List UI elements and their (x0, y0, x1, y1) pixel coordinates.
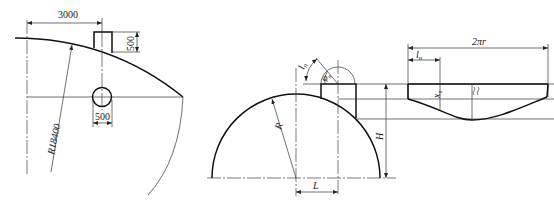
break-mark (477, 87, 479, 95)
break-mark (473, 87, 475, 95)
dim-500-circle-label: 500 (95, 111, 110, 122)
nozzle-box (321, 84, 356, 118)
angle-label: φn (318, 70, 333, 84)
left-figure-tank-shell: 3000 500 500 R18400 (15, 9, 183, 195)
offset-label: L (312, 180, 319, 191)
pattern-intersection-curve (408, 97, 547, 120)
arc-length-label: ln (296, 61, 311, 72)
arc-length-dim (306, 59, 317, 81)
right-figure-developed-pattern: 2πr ln xn (408, 36, 548, 120)
circumference-label: 2πr (472, 36, 486, 47)
engineering-drawing: 3000 500 500 R18400 (0, 0, 554, 208)
height-label: H (374, 132, 385, 141)
ordinate-label: xn (431, 91, 443, 99)
shell-arc-side (148, 97, 183, 195)
dim-3000-label: 3000 (58, 9, 78, 20)
dome-radius-leader (272, 99, 296, 178)
radius-label: R18400 (45, 123, 62, 157)
dome-radius-label: R (272, 121, 285, 131)
middle-figure-dome-section: R ln φn H L (207, 58, 554, 196)
dim-500-vertical-label: 500 (125, 36, 136, 51)
pattern-right-side (547, 84, 548, 97)
